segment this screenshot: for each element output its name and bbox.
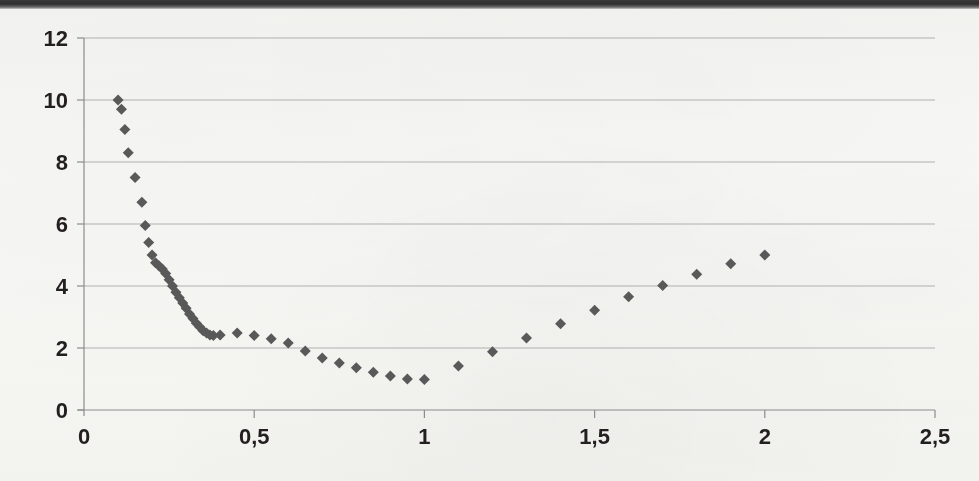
data-point: [140, 220, 151, 231]
data-point: [657, 280, 668, 291]
x-axis-ticks: [254, 410, 765, 418]
data-point: [725, 258, 736, 269]
data-point: [266, 333, 277, 344]
x-tick-label: 2,5: [920, 424, 951, 449]
data-point: [119, 124, 130, 135]
y-tick-label: 8: [56, 150, 68, 175]
data-point: [521, 333, 532, 344]
data-point: [385, 370, 396, 381]
x-tick-label: 0: [78, 424, 90, 449]
chart-axes: [78, 38, 935, 418]
y-tick-label: 2: [56, 336, 68, 361]
data-point: [143, 237, 154, 248]
data-point: [113, 95, 124, 106]
y-tick-label: 10: [44, 88, 68, 113]
y-tick-label: 4: [56, 274, 69, 299]
data-point: [130, 172, 141, 183]
y-tick-label: 6: [56, 212, 68, 237]
data-point: [623, 291, 634, 302]
data-point: [232, 328, 243, 339]
data-point: [691, 269, 702, 280]
chart-page: 024681012 00,511,522,5: [0, 0, 979, 481]
data-point: [249, 330, 260, 341]
data-point: [334, 357, 345, 368]
data-point: [351, 362, 362, 373]
y-tick-label: 0: [56, 398, 68, 423]
y-axis-tick-labels: 024681012: [44, 26, 69, 423]
x-tick-label: 2: [759, 424, 771, 449]
data-point-series: [113, 95, 771, 386]
gridlines: [84, 38, 935, 348]
scatter-chart: 024681012 00,511,522,5: [0, 0, 979, 481]
data-point: [317, 352, 328, 363]
x-tick-label: 0,5: [239, 424, 270, 449]
data-point: [589, 305, 600, 316]
data-point: [136, 197, 147, 208]
data-point: [283, 338, 294, 349]
data-point: [453, 360, 464, 371]
y-axis-ticks: [77, 38, 84, 410]
data-point: [368, 367, 379, 378]
data-point: [402, 374, 413, 385]
data-point: [215, 329, 226, 340]
data-point: [123, 147, 134, 158]
x-axis-tick-labels: 00,511,522,5: [78, 424, 950, 449]
data-point: [555, 318, 566, 329]
data-point: [300, 346, 311, 357]
x-tick-label: 1,5: [579, 424, 610, 449]
x-tick-label: 1: [418, 424, 430, 449]
y-tick-label: 12: [44, 26, 68, 51]
data-point: [759, 250, 770, 261]
data-point: [419, 374, 430, 385]
data-point: [116, 104, 127, 115]
